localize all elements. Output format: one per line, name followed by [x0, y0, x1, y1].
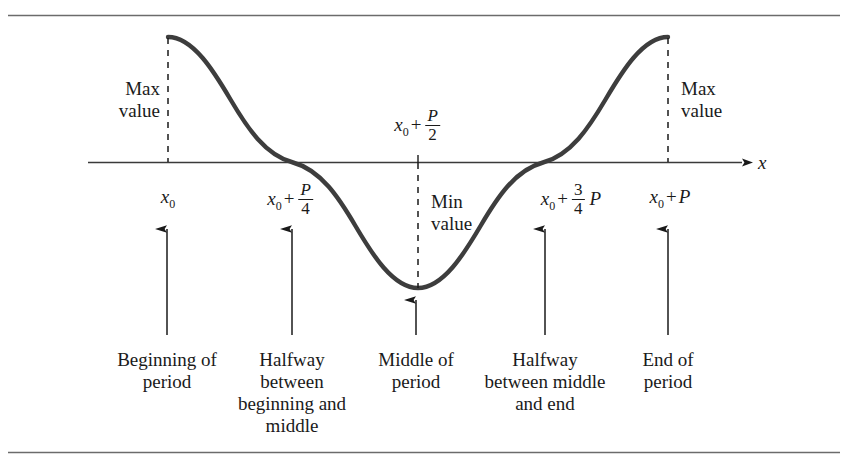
tick-start-sub: 0 [169, 197, 175, 211]
min-value-line2: value [431, 213, 472, 235]
description-end: End of period [620, 349, 716, 393]
max-value-left-label: Max value [119, 78, 160, 122]
description-middle: Middle of period [354, 349, 479, 393]
tick-label-half: x0+P2 [394, 108, 442, 145]
min-value-line1: Min [431, 191, 472, 213]
tick-label-three-quarter: x0+34P [541, 182, 601, 219]
tick-quarter-numerator: P [298, 181, 312, 199]
tick-tq-fraction: 34 [572, 181, 585, 218]
tick-tq-op: + [555, 188, 570, 209]
figure-linework [0, 0, 848, 470]
x-axis-label: x [758, 152, 766, 174]
tick-tq-numerator: 3 [572, 181, 585, 199]
tick-half-fraction: P2 [425, 107, 439, 144]
max-value-right-line1: Max [681, 78, 722, 100]
max-value-left-line2: value [119, 100, 160, 122]
tick-label-quarter: x0+P4 [267, 182, 315, 219]
figure-container: x Max value Max value Min value x0 x0+P4… [0, 0, 848, 470]
tick-end-op: + [664, 186, 679, 207]
tick-label-start: x0 [161, 186, 175, 212]
description-halfway-middle: Halfway between middle and end [482, 349, 608, 415]
min-value-label: Min value [431, 191, 472, 235]
tick-end-suffix: P [679, 186, 691, 207]
max-value-right-line2: value [681, 100, 722, 122]
description-halfway-begin: Halfway between beginning and middle [229, 349, 355, 437]
tick-tq-denominator: 4 [572, 199, 585, 218]
tick-tq-suffix: P [587, 188, 602, 209]
tick-quarter-op: + [282, 188, 297, 209]
tick-quarter-fraction: P4 [298, 181, 312, 218]
description-beginning: Beginning of period [92, 349, 242, 393]
max-value-right-label: Max value [681, 78, 722, 122]
tick-half-op: + [409, 114, 424, 135]
tick-half-numerator: P [425, 107, 439, 125]
max-value-left-line1: Max [119, 78, 160, 100]
tick-half-denominator: 2 [425, 125, 439, 144]
tick-quarter-denominator: 4 [298, 199, 312, 218]
tick-label-end: x0+P [650, 186, 691, 212]
